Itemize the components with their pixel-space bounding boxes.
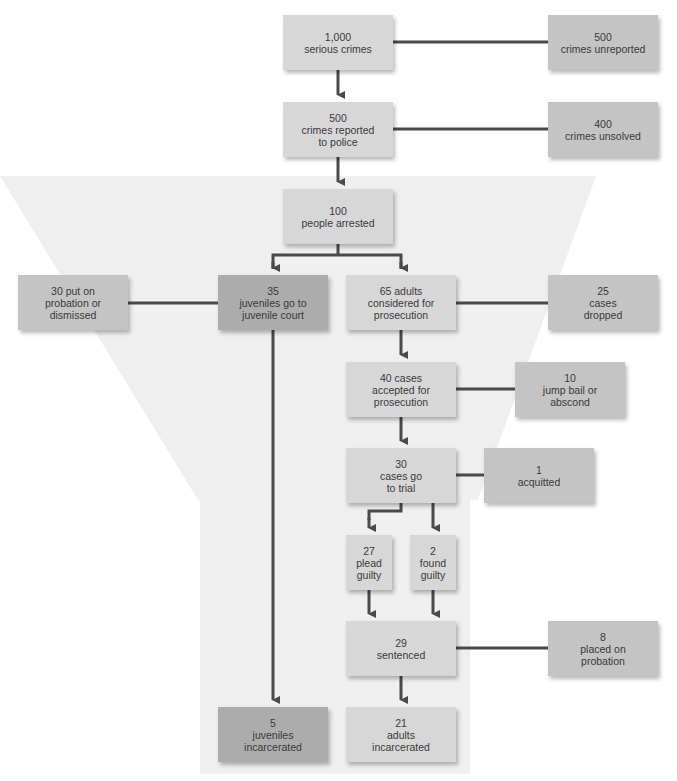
node-label: juveniles incarcerated	[220, 729, 326, 753]
node-placed-on-probation: 8placed on probation	[548, 621, 658, 676]
node-number: 29	[377, 637, 425, 649]
node-number: 21	[348, 717, 454, 729]
node-cases-dropped: 25cases dropped	[548, 275, 658, 330]
node-label: 30 put on probation or dismissed	[20, 285, 126, 321]
node-label: 65 adults considered for prosecution	[348, 285, 454, 321]
node-label: juveniles go to juvenile court	[220, 297, 326, 321]
criminal-justice-funnel-diagram: 1,000serious crimes 500crimes unreported…	[0, 0, 677, 781]
node-number: 1	[518, 464, 561, 476]
node-label: sentenced	[377, 649, 425, 661]
node-label: cases go to trial	[348, 470, 454, 494]
node-number: 30	[348, 458, 454, 470]
node-number: 10	[517, 372, 623, 384]
node-acquitted: 1acquitted	[484, 448, 594, 503]
node-number: 5	[220, 717, 326, 729]
node-label: crimes unreported	[561, 43, 646, 55]
node-cases-go-to-trial: 30cases go to trial	[346, 448, 456, 503]
node-number: 2	[412, 545, 454, 557]
node-number: 500	[561, 31, 646, 43]
node-juveniles-incarcerated: 5juveniles incarcerated	[218, 707, 328, 762]
node-label: adults incarcerated	[348, 729, 454, 753]
node-sentenced: 29sentenced	[346, 621, 456, 676]
node-number: 1,000	[304, 31, 372, 43]
node-label: placed on probation	[550, 643, 656, 667]
node-number: 27	[348, 545, 390, 557]
node-label: plead guilty	[348, 557, 390, 581]
node-label: people arrested	[302, 217, 375, 229]
node-label: 40 cases accepted for prosecution	[348, 372, 454, 408]
node-number: 8	[550, 631, 656, 643]
node-people-arrested: 100people arrested	[283, 189, 393, 244]
node-adults-considered: 65 adults considered for prosecution	[346, 275, 456, 330]
node-crimes-unsolved: 400crimes unsolved	[548, 102, 658, 157]
node-label: jump bail or abscond	[517, 384, 623, 408]
node-crimes-unreported: 500crimes unreported	[548, 15, 658, 70]
node-juvenile-court: 35juveniles go to juvenile court	[218, 275, 328, 330]
node-jump-bail: 10jump bail or abscond	[515, 362, 625, 417]
node-label: acquitted	[518, 476, 561, 488]
node-label: found guilty	[412, 557, 454, 581]
node-plead-guilty: 27plead guilty	[346, 535, 392, 590]
node-found-guilty: 2found guilty	[410, 535, 456, 590]
node-adults-incarcerated: 21adults incarcerated	[346, 707, 456, 762]
node-cases-accepted: 40 cases accepted for prosecution	[346, 362, 456, 417]
node-label: serious crimes	[304, 43, 372, 55]
node-label: crimes unsolved	[565, 130, 641, 142]
node-number: 25	[550, 285, 656, 297]
node-number: 100	[302, 205, 375, 217]
node-crimes-reported: 500crimes reported to police	[283, 102, 393, 157]
node-serious-crimes: 1,000serious crimes	[283, 15, 393, 70]
node-number: 400	[565, 118, 641, 130]
node-probation-or-dismissed: 30 put on probation or dismissed	[18, 275, 128, 330]
node-label: crimes reported to police	[285, 124, 391, 148]
node-number: 500	[285, 112, 391, 124]
node-number: 35	[220, 285, 326, 297]
node-label: cases dropped	[550, 297, 656, 321]
